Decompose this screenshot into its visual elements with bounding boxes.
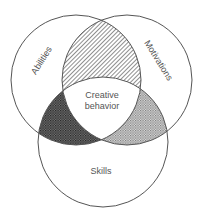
motivations-label: Motivations <box>142 38 175 82</box>
center-label-line2: behavior <box>85 101 120 111</box>
venn-svg: Abilities Motivations Skills Creative be… <box>0 0 202 218</box>
abilities-label: Abilities <box>29 44 54 76</box>
skills-label: Skills <box>90 166 112 176</box>
venn-diagram: Abilities Motivations Skills Creative be… <box>0 0 202 218</box>
center-label-line1: Creative <box>85 90 119 100</box>
